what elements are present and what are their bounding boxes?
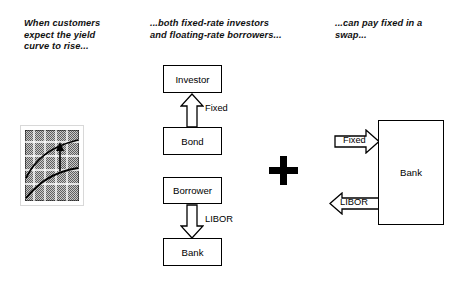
node-bank-right-label: Bank (400, 167, 422, 178)
node-borrower-label: Borrower (173, 185, 212, 196)
node-investor-label: Investor (175, 74, 209, 85)
node-bank-middle[interactable]: Bank (163, 238, 222, 266)
node-bank-right[interactable]: Bank (378, 120, 444, 225)
caption-right: ...can pay fixed in a swap... (335, 18, 450, 41)
yield-curve-chart (20, 125, 84, 206)
node-borrower[interactable]: Borrower (163, 177, 222, 204)
caption-middle: ...both fixed-rate investors and floatin… (150, 18, 325, 41)
flow-label-fixed-right: Fixed (343, 135, 366, 145)
node-bond[interactable]: Bond (163, 127, 222, 155)
diagram-canvas: When customers expect the yield curve to… (0, 0, 458, 281)
yield-curve-plot (25, 130, 79, 201)
flow-label-fixed-middle: Fixed (205, 103, 228, 113)
node-bond-label: Bond (181, 136, 203, 147)
node-bank-middle-label: Bank (182, 247, 204, 258)
arrow-up-fixed-icon (180, 93, 204, 128)
flow-label-libor-middle: LIBOR (205, 214, 233, 224)
arrow-down-libor-icon (180, 204, 204, 239)
caption-left: When customers expect the yield curve to… (24, 18, 144, 53)
plus-operator-icon (268, 155, 299, 186)
node-investor[interactable]: Investor (163, 65, 222, 93)
flow-label-libor-right: LIBOR (340, 197, 368, 207)
